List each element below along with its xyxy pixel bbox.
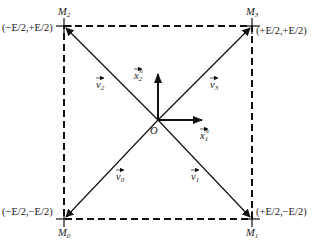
vector-label-v3: v3 [210,78,219,92]
vector-label-v2: v2 [96,78,105,92]
corner-coord-m1: (+E/2,−E/2) [256,206,307,218]
svg-text:v2: v2 [96,79,105,92]
vector-label-v0: v0 [116,170,125,184]
origin-label: O [150,125,158,136]
vector-v0-arrow [66,120,158,217]
corner-coord-m3: (+E/2,+E/2) [256,25,307,37]
corner-label-m1: M1 [245,227,258,240]
voltage-vectors [66,28,250,217]
corner-coord-m0: (−E/2,−E/2) [2,206,53,218]
svg-text:v1: v1 [191,171,199,184]
vector-label-v1: v1 [191,170,199,184]
svg-text:v0: v0 [116,171,125,184]
vector-v2-arrow [66,28,158,120]
axis-label-x2: x2n [133,67,143,83]
vector-v3-arrow [158,28,250,120]
svg-text:x1n: x1n [199,127,209,143]
corner-label-m2: M2 [57,6,71,19]
axis-label-x1: x1n [199,127,209,143]
space-vector-diagram: O M2 (−E/2,+E/2) M3 (+E/2,+E/2) M0 (−E/2… [0,0,316,246]
svg-text:x2n: x2n [133,67,143,83]
corner-coord-m2: (−E/2,+E/2) [2,22,53,34]
corner-label-m0: M0 [57,227,71,240]
svg-text:v3: v3 [210,79,219,92]
corner-label-m3: M3 [245,6,259,19]
diagram-canvas: O M2 (−E/2,+E/2) M3 (+E/2,+E/2) M0 (−E/2… [0,0,316,246]
